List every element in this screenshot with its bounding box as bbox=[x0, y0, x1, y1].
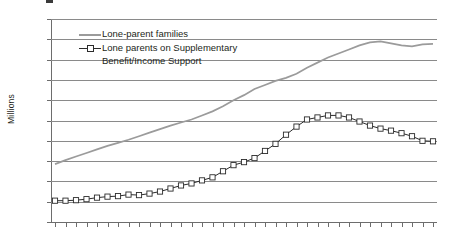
x-axis-tick-label: 1984 bbox=[195, 230, 196, 251]
x-axis-tick-label: 1990 bbox=[258, 230, 259, 251]
x-axis-tick-mark bbox=[349, 223, 350, 227]
x-axis-tick-label: 1992 bbox=[279, 230, 280, 251]
x-axis-tick-mark bbox=[171, 223, 172, 227]
x-axis-tick-label: 1972 bbox=[69, 230, 70, 251]
legend-item-lone-parent-families: Lone-parent families bbox=[78, 28, 237, 41]
x-axis-tick-label: 1976 bbox=[111, 230, 112, 251]
data-point-marker bbox=[105, 194, 110, 199]
x-axis-tick-mark bbox=[244, 223, 245, 227]
series-line-1 bbox=[55, 115, 433, 200]
x-axis-tick-label: 2005 bbox=[415, 230, 416, 251]
data-point-marker bbox=[199, 178, 204, 183]
x-axis-tick-mark bbox=[307, 223, 308, 227]
x-axis-tick-mark bbox=[265, 223, 266, 227]
data-point-marker bbox=[378, 126, 383, 131]
x-axis-tick-mark bbox=[297, 223, 298, 227]
data-point-marker bbox=[388, 128, 393, 133]
x-axis-tick-label: 2004 bbox=[405, 230, 406, 251]
x-axis-tick-mark bbox=[181, 223, 182, 227]
data-point-marker bbox=[283, 132, 288, 137]
x-axis-tick-mark bbox=[286, 223, 287, 227]
x-axis-tick-mark bbox=[276, 223, 277, 227]
cropped-top-artifact bbox=[46, 0, 53, 3]
legend-swatch-spacer bbox=[78, 55, 102, 68]
data-point-marker bbox=[73, 198, 78, 203]
x-axis-tick-mark bbox=[391, 223, 392, 227]
x-axis-tick-mark bbox=[234, 223, 235, 227]
data-point-marker bbox=[252, 155, 257, 160]
data-point-marker bbox=[168, 186, 173, 191]
x-axis-tick-label: 2006 bbox=[426, 230, 427, 251]
x-axis-tick-mark bbox=[433, 223, 434, 227]
x-axis-tick-label: 1996 bbox=[321, 230, 322, 251]
data-point-marker bbox=[147, 191, 152, 196]
data-point-marker bbox=[178, 183, 183, 188]
x-axis-tick-label: 1988 bbox=[237, 230, 238, 251]
x-axis-tick-label: 2001 bbox=[373, 230, 374, 251]
data-point-marker bbox=[94, 195, 99, 200]
x-axis-tick-mark bbox=[108, 223, 109, 227]
x-axis-tick-mark bbox=[328, 223, 329, 227]
data-point-marker bbox=[231, 163, 236, 168]
data-point-marker bbox=[126, 192, 131, 197]
x-axis-tick-label: 1999 bbox=[352, 230, 353, 251]
legend-label-2: Benefit/Income Support bbox=[102, 55, 201, 68]
x-axis-tick-mark bbox=[76, 223, 77, 227]
x-axis-tick-mark bbox=[318, 223, 319, 227]
x-axis-tick-label: 2003 bbox=[394, 230, 395, 251]
data-point-marker bbox=[220, 169, 225, 174]
legend-label-1: Lone parents on Supplementary bbox=[102, 42, 237, 55]
x-axis-tick-mark bbox=[381, 223, 382, 227]
x-axis-tick-mark bbox=[192, 223, 193, 227]
legend-label-0: Lone-parent families bbox=[102, 28, 188, 41]
x-axis-tick-mark bbox=[55, 223, 56, 227]
x-axis-tick-label: 1979 bbox=[142, 230, 143, 251]
x-axis-tick-mark bbox=[97, 223, 98, 227]
chart-legend: Lone-parent families Lone parents on Sup… bbox=[78, 28, 237, 69]
x-axis-tick-mark bbox=[423, 223, 424, 227]
x-axis-tick-label: 1997 bbox=[331, 230, 332, 251]
data-point-marker bbox=[84, 197, 89, 202]
x-axis-tick-mark bbox=[223, 223, 224, 227]
data-point-marker bbox=[294, 124, 299, 129]
data-point-marker bbox=[63, 198, 68, 203]
data-point-marker bbox=[136, 193, 141, 198]
data-point-marker bbox=[399, 131, 404, 136]
data-point-marker bbox=[420, 138, 425, 143]
legend-item-continuation: Benefit/Income Support bbox=[78, 55, 237, 68]
data-point-marker bbox=[346, 115, 351, 120]
x-axis-tick-label: 1974 bbox=[90, 230, 91, 251]
x-axis-tick-label: 1991 bbox=[268, 230, 269, 251]
x-axis-tick-label: 2002 bbox=[384, 230, 385, 251]
x-axis-tick-label: 1971 bbox=[58, 230, 59, 251]
x-axis-tick-mark bbox=[129, 223, 130, 227]
x-axis-tick-mark bbox=[202, 223, 203, 227]
x-axis-tick-label: 1985 bbox=[205, 230, 206, 251]
x-axis-tick-label: 1973 bbox=[79, 230, 80, 251]
x-axis-tick-label: 2000 bbox=[363, 230, 364, 251]
data-point-marker bbox=[262, 148, 267, 153]
x-axis-tick-mark bbox=[339, 223, 340, 227]
x-axis-tick-mark bbox=[412, 223, 413, 227]
x-axis-tick-label: 1993 bbox=[289, 230, 290, 251]
data-point-marker bbox=[52, 198, 57, 203]
x-axis-tick-label: 1977 bbox=[121, 230, 122, 251]
x-axis-tick-label: 1998 bbox=[342, 230, 343, 251]
open-square-marker-icon bbox=[87, 45, 94, 52]
data-point-marker bbox=[210, 175, 215, 180]
data-point-marker bbox=[315, 115, 320, 120]
data-point-marker bbox=[367, 123, 372, 128]
x-axis-tick-label: 1981 bbox=[163, 230, 164, 251]
x-axis-tick-label: 1975 bbox=[100, 230, 101, 251]
chart-figure: Millions 00.20.40.60.811.21.41.61.82 197… bbox=[0, 0, 451, 251]
x-axis-tick-label: 1986 bbox=[216, 230, 217, 251]
x-axis-tick-mark bbox=[402, 223, 403, 227]
x-axis-tick-label: 1980 bbox=[153, 230, 154, 251]
x-axis-tick-label: 1987 bbox=[226, 230, 227, 251]
x-axis-tick-label: 1989 bbox=[247, 230, 248, 251]
data-point-marker bbox=[430, 139, 435, 144]
x-axis-tick-label: 1978 bbox=[132, 230, 133, 251]
legend-line-swatch-grey bbox=[78, 28, 102, 41]
x-axis-tick-mark bbox=[160, 223, 161, 227]
x-axis-tick-mark bbox=[360, 223, 361, 227]
